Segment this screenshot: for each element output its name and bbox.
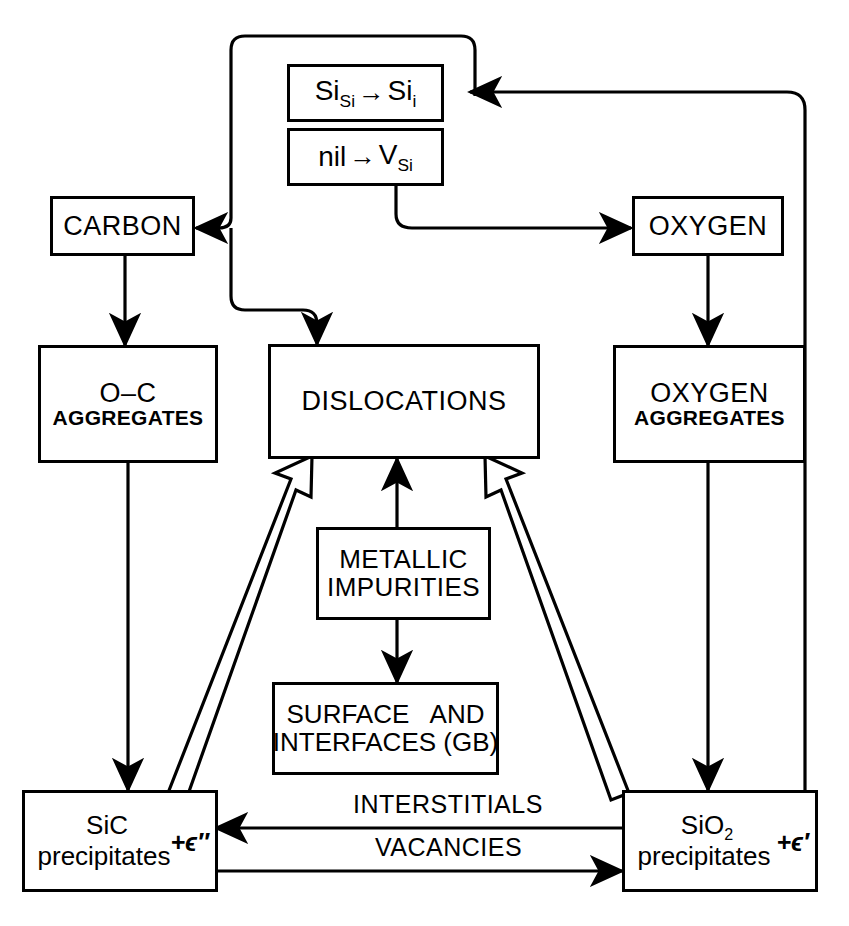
- oc-aggregates-line1: O–C: [99, 379, 156, 407]
- oxygen-label: OXYGEN: [649, 212, 768, 240]
- vacancy-lhs: nil: [318, 142, 346, 171]
- surface-interfaces-line1: SURFACE AND: [287, 701, 485, 728]
- sio2-line2: precipitates: [625, 843, 783, 870]
- right-arrow-icon: →: [358, 79, 385, 106]
- sic-strain-term: +ϵ″: [170, 829, 209, 855]
- node-surface-interfaces[interactable]: SURFACE AND INTERFACES (GB): [272, 682, 499, 775]
- vacancy-rhs: VSi: [379, 140, 413, 174]
- surface-interfaces-line2: INTERFACES (GB): [273, 729, 498, 756]
- si-lhs: SiSi: [315, 76, 355, 110]
- node-carbon[interactable]: CARBON: [50, 196, 195, 256]
- edge-label-vacancies: VACANCIES: [371, 833, 526, 862]
- edge-branch-to-dislocations: [231, 228, 317, 344]
- edge-sio2-to-dislocations-hollow: [485, 456, 629, 800]
- node-oc-aggregates[interactable]: O–C AGGREGATES: [38, 345, 218, 463]
- sic-line1: SiC: [25, 812, 189, 839]
- edge-branch-to-carbon: [196, 218, 231, 228]
- node-metallic-impurities[interactable]: METALLIC IMPURITIES: [316, 527, 491, 620]
- edge-vacancy-to-oxygen: [396, 186, 631, 228]
- oxygen-aggregates-line2: AGGREGATES: [634, 407, 785, 429]
- node-oxygen-aggregates[interactable]: OXYGEN AGGREGATES: [613, 345, 806, 463]
- node-oxygen[interactable]: OXYGEN: [632, 196, 784, 256]
- si-rhs: Sii: [388, 76, 417, 110]
- node-vacancy-reaction[interactable]: nil → VSi: [287, 128, 444, 186]
- sic-precipitates-content: SiC precipitates +ϵ″: [25, 793, 215, 889]
- sio2-line1: SiO2: [625, 812, 789, 843]
- edge-label-interstitials: INTERSTITIALS: [349, 790, 547, 819]
- self-interstitial-equation: SiSi → Sii: [315, 76, 417, 110]
- dislocations-label: DISLOCATIONS: [301, 387, 506, 415]
- sio2-strain-term: +ϵ′: [776, 829, 809, 855]
- node-sio2-precipitates[interactable]: SiO2 precipitates +ϵ′: [622, 790, 818, 892]
- oxygen-aggregates-line1: OXYGEN: [650, 379, 769, 407]
- metallic-impurities-line2: IMPURITIES: [327, 574, 480, 601]
- metallic-impurities-line1: METALLIC: [339, 546, 467, 573]
- diagram-canvas: SiSi → Sii nil → VSi CARBON OXYGEN O–C A…: [0, 0, 849, 926]
- carbon-label: CARBON: [63, 212, 182, 240]
- sic-line2: precipitates: [25, 843, 183, 870]
- sio2-precipitates-content: SiO2 precipitates +ϵ′: [625, 793, 815, 889]
- node-dislocations[interactable]: DISLOCATIONS: [268, 344, 540, 459]
- right-arrow-icon: →: [349, 143, 376, 170]
- vacancy-equation: nil → VSi: [318, 140, 413, 174]
- node-sic-precipitates[interactable]: SiC precipitates +ϵ″: [22, 790, 218, 892]
- oc-aggregates-line2: AGGREGATES: [53, 407, 204, 429]
- node-self-interstitial-reaction[interactable]: SiSi → Sii: [287, 64, 444, 122]
